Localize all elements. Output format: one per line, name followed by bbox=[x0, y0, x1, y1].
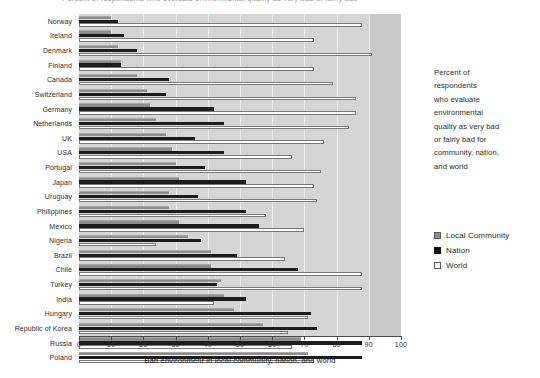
bar-local-community bbox=[79, 323, 263, 326]
bar-group bbox=[79, 14, 401, 29]
x-axis-title: Bad environment in local community, nati… bbox=[79, 356, 401, 365]
y-axis-label: Hungary bbox=[0, 307, 76, 322]
bar-world bbox=[79, 184, 314, 187]
y-axis-label: Republic of Korea bbox=[0, 321, 76, 336]
legend-item[interactable]: Local Community bbox=[434, 228, 540, 243]
bar-local-community bbox=[79, 191, 169, 194]
bar-world bbox=[79, 331, 288, 334]
bar-world bbox=[79, 82, 333, 85]
bar-nation bbox=[79, 122, 224, 125]
bar-group bbox=[79, 43, 401, 58]
x-axis-tick-label: 30 bbox=[171, 341, 179, 348]
chart-legend: Local CommunityNationWorld bbox=[434, 228, 540, 273]
legend-swatch-icon bbox=[434, 247, 441, 254]
bar-nation bbox=[79, 78, 169, 81]
x-axis-tick bbox=[79, 336, 80, 340]
bar-world bbox=[79, 301, 214, 304]
legend-item[interactable]: Nation bbox=[434, 243, 540, 258]
bar-local-community bbox=[79, 60, 121, 63]
bar-nation bbox=[79, 312, 311, 315]
bar-group bbox=[79, 204, 401, 219]
bar-world bbox=[79, 38, 314, 41]
bar-group bbox=[79, 233, 401, 248]
bar-local-community bbox=[79, 294, 224, 297]
bar-local-community bbox=[79, 250, 211, 253]
y-axis-label: Germany bbox=[0, 102, 76, 117]
gridline bbox=[401, 14, 402, 336]
plot-area bbox=[79, 14, 401, 336]
y-axis-label: Netherlands bbox=[0, 116, 76, 131]
bar-world bbox=[79, 199, 317, 202]
legend-label: Nation bbox=[446, 246, 470, 255]
x-axis-tick-label: 40 bbox=[204, 341, 212, 348]
caption-line: respondents bbox=[434, 79, 540, 92]
bar-world bbox=[79, 140, 324, 143]
bar-nation bbox=[79, 180, 246, 183]
x-axis-tick-label: 50 bbox=[236, 341, 244, 348]
caption-line: or fairly bad for bbox=[434, 133, 540, 146]
y-axis-label: Switzerland bbox=[0, 87, 76, 102]
caption-line: who evaluate bbox=[434, 93, 540, 106]
bar-local-community bbox=[79, 279, 221, 282]
bar-nation bbox=[79, 327, 317, 330]
legend-item[interactable]: World bbox=[434, 258, 540, 273]
bar-nation bbox=[79, 239, 201, 242]
x-axis-tick-label: 20 bbox=[139, 341, 147, 348]
x-axis-tick-label: 0 bbox=[77, 341, 81, 348]
y-axis-label: Russia bbox=[0, 336, 76, 351]
x-axis-tick bbox=[304, 336, 305, 340]
bar-group bbox=[79, 131, 401, 146]
bar-world bbox=[79, 23, 362, 26]
chart-title: Percent of respondents who evaluate envi… bbox=[0, 0, 420, 3]
bar-nation bbox=[79, 210, 246, 213]
bar-group bbox=[79, 102, 401, 117]
x-axis-tick-label: 90 bbox=[365, 341, 373, 348]
legend-swatch-icon bbox=[434, 232, 441, 239]
bar-group bbox=[79, 248, 401, 263]
y-axis-label: Norway bbox=[0, 14, 76, 29]
bar-local-community bbox=[79, 16, 111, 19]
bar-world bbox=[79, 67, 314, 70]
y-axis-label: India bbox=[0, 292, 76, 307]
bar-world bbox=[79, 257, 285, 260]
x-axis-tick bbox=[208, 336, 209, 340]
bar-local-community bbox=[79, 89, 147, 92]
x-axis-tick bbox=[111, 336, 112, 340]
y-axis-label: Uruguay bbox=[0, 190, 76, 205]
bar-world bbox=[79, 287, 362, 290]
y-axis-label: Mexico bbox=[0, 219, 76, 234]
bar-world bbox=[79, 111, 356, 114]
bar-local-community bbox=[79, 352, 308, 355]
bar-group bbox=[79, 277, 401, 292]
x-axis-tick-label: 60 bbox=[268, 341, 276, 348]
caption-line: community, nation, bbox=[434, 146, 540, 159]
bar-local-community bbox=[79, 118, 156, 121]
bar-nation bbox=[79, 224, 259, 227]
bar-nation bbox=[79, 93, 166, 96]
bar-nation bbox=[79, 63, 121, 66]
bar-group bbox=[79, 307, 401, 322]
chart-figure: Percent of respondents who evaluate envi… bbox=[0, 0, 540, 378]
bar-rows bbox=[79, 14, 401, 336]
x-axis-tick bbox=[369, 336, 370, 340]
bar-local-community bbox=[79, 235, 188, 238]
y-axis-label: Portugal bbox=[0, 160, 76, 175]
y-axis-label: Philippines bbox=[0, 204, 76, 219]
x-axis-tick-label: 10 bbox=[107, 341, 115, 348]
bar-world bbox=[79, 228, 304, 231]
bar-group bbox=[79, 292, 401, 307]
x-axis-tick bbox=[401, 336, 402, 340]
y-axis-label: UK bbox=[0, 131, 76, 146]
x-axis-tick-label: 80 bbox=[332, 341, 340, 348]
caption-line: and world bbox=[434, 160, 540, 173]
x-axis-tick-label: 100 bbox=[395, 341, 408, 348]
x-axis-tick bbox=[240, 336, 241, 340]
bar-world bbox=[79, 170, 321, 173]
bar-nation bbox=[79, 137, 195, 140]
chart-caption: Percent ofrespondentswho evaluateenviron… bbox=[434, 66, 540, 173]
bar-group bbox=[79, 175, 401, 190]
bar-world bbox=[79, 97, 356, 100]
bar-group bbox=[79, 116, 401, 131]
y-axis-label: Ireland bbox=[0, 29, 76, 44]
bar-nation bbox=[79, 107, 214, 110]
